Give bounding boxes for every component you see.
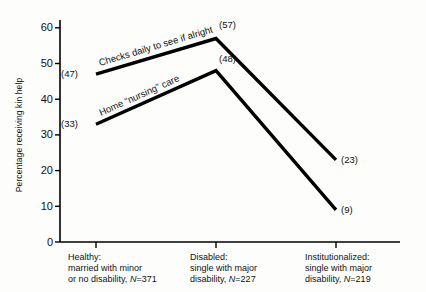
svg-text:married with minor: married with minor [68, 263, 142, 273]
y-tick-label-50: 50 [41, 57, 53, 69]
point-label-nursing-healthy: (33) [61, 118, 78, 129]
point-label-checks-disabled: (57) [219, 19, 236, 30]
line-chart-svg: 0 10 20 30 40 50 60 Percentage receiving… [0, 0, 426, 292]
cat2-n-value: =219 [350, 274, 370, 284]
cat1-n-value: =227 [235, 274, 255, 284]
y-tick-label-20: 20 [41, 164, 53, 176]
svg-text:disability, N=219: disability, N=219 [305, 274, 371, 284]
x-category-label-healthy: Healthy: married with minor or no disabi… [68, 252, 157, 284]
svg-text:Institutionalized:: Institutionalized: [305, 252, 370, 262]
cat0-n-value: =371 [136, 274, 156, 284]
x-tick-marks [96, 242, 336, 248]
svg-text:Healthy:: Healthy: [68, 252, 101, 262]
y-tick-label-10: 10 [41, 200, 53, 212]
cat0-line3-prefix: or no disability, [68, 274, 130, 284]
y-tick-label-0: 0 [47, 236, 53, 248]
point-label-nursing-disabled: (48) [219, 53, 236, 64]
cat1-line3-prefix: disability, [190, 274, 229, 284]
y-tick-label-30: 30 [41, 128, 53, 140]
y-tick-label-60: 60 [41, 21, 53, 33]
svg-text:Disabled:: Disabled: [190, 252, 228, 262]
point-label-nursing-institutionalized: (9) [341, 204, 353, 215]
point-label-checks-institutionalized: (23) [341, 154, 358, 165]
cat2-line3-prefix: disability, [305, 274, 344, 284]
point-label-checks-healthy: (47) [61, 68, 78, 79]
series-label-home-nursing-care: Home “nursing” care [97, 72, 181, 117]
chart-figure: 0 10 20 30 40 50 60 Percentage receiving… [0, 0, 426, 292]
y-tick-label-40: 40 [41, 93, 53, 105]
x-category-label-disabled: Disabled: single with major disability, … [190, 252, 257, 284]
svg-text:disability, N=227: disability, N=227 [190, 274, 256, 284]
y-axis-title: Percentage receiving kin help [14, 78, 24, 193]
svg-text:or no disability, N=371: or no disability, N=371 [68, 274, 157, 284]
svg-text:single with major: single with major [305, 263, 372, 273]
x-category-label-institutionalized: Institutionalized: single with major dis… [305, 252, 372, 284]
svg-text:single with major: single with major [190, 263, 257, 273]
